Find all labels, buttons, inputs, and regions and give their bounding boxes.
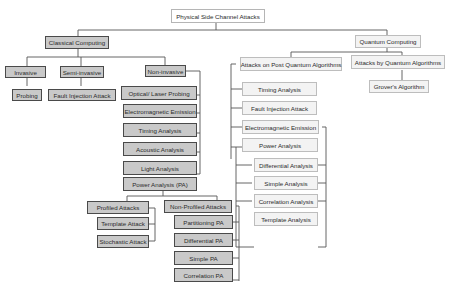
fault-injection-node: Fault Injection Attack	[48, 89, 116, 101]
em-emission-node: Electromagnetic Emission	[123, 104, 197, 118]
post-quantum-attacks-node: Attacks on Post Quantum Algorithms	[240, 57, 342, 71]
correlation-pa-node: Correlation PA	[174, 268, 233, 282]
simple-analysis-node: Simple Analysis	[254, 176, 318, 190]
stochastic-attack-node: Stochastic Attack	[97, 235, 149, 248]
pq-fault-injection-node: Fault Injection Attack	[242, 101, 317, 115]
light-analysis-node: Light Analysis	[123, 161, 197, 175]
non-invasive-node: Non-invasive	[145, 65, 186, 77]
template-attack-node: Template Attack	[97, 217, 149, 230]
pq-power-analysis-node: Power Analysis	[242, 138, 318, 152]
root-node: Physical Side Channel Attacks	[171, 9, 265, 23]
optical-laser-probing-node: Optical/ Laser Probing	[121, 86, 197, 100]
invasive-node: Invasive	[5, 66, 46, 78]
simple-pa-node: Simple PA	[174, 251, 233, 265]
probing-node: Probing	[12, 89, 42, 101]
template-analysis-node: Template Analysis	[254, 212, 318, 226]
grovers-algorithm-node: Grover's Algorithm	[369, 80, 429, 93]
non-profiled-attacks-node: Non-Profiled Attacks	[164, 200, 232, 213]
pq-em-emission-node: Electromagnetic Emission	[242, 120, 319, 134]
partitioning-pa-node: Partitioning PA	[174, 215, 233, 229]
differential-pa-node: Differential PA	[174, 233, 233, 247]
by-quantum-attacks-node: Attacks by Quantum Algorithms	[351, 55, 445, 69]
profiled-attacks-node: Profiled Attacks	[87, 201, 149, 214]
semi-invasive-node: Semi-invasive	[60, 66, 104, 78]
quantum-computing-node: Quantum Computing	[355, 35, 421, 48]
differential-analysis-node: Differential Analysis	[254, 158, 318, 172]
power-analysis-pa-node: Power Analysis (PA)	[123, 177, 197, 191]
correlation-analysis-node: Correlation Analysis	[254, 194, 318, 208]
classical-computing-node: Classical Computing	[45, 36, 109, 49]
acoustic-analysis-node: Acoustic Analysis	[123, 142, 197, 156]
pq-timing-analysis-node: Timing Analysis	[242, 82, 317, 96]
timing-analysis-node: Timing Analysis	[123, 123, 197, 137]
